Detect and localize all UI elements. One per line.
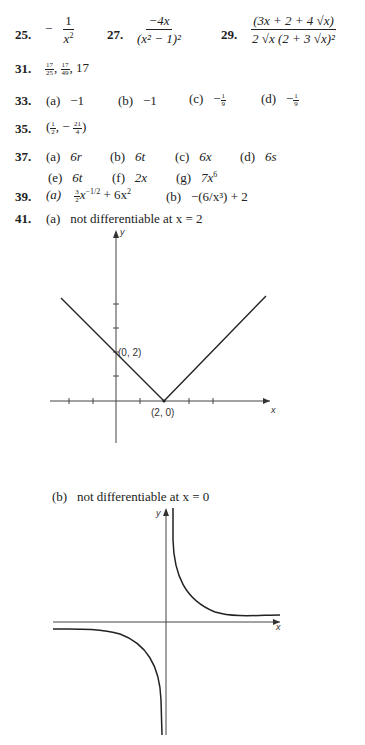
x-axis-label: x bbox=[275, 622, 281, 632]
y-axis-label: y bbox=[155, 508, 161, 518]
graph-41b: y x bbox=[0, 0, 365, 745]
